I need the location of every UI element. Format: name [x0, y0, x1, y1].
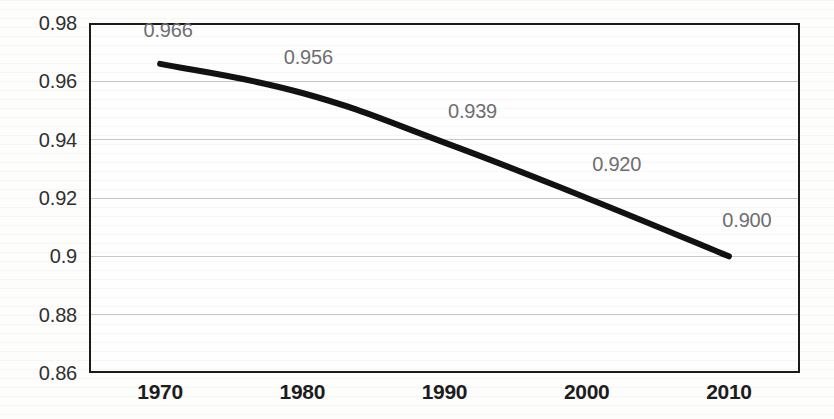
- data-point-label: 0.939: [433, 101, 513, 121]
- data-point-label: 0.956: [268, 47, 348, 67]
- data-point-labels: 0.9660.9560.9390.9200.900: [0, 0, 834, 419]
- data-point-label: 0.920: [577, 154, 657, 174]
- data-point-label: 0.900: [707, 210, 787, 230]
- chart-figure: 0.980.960.940.920.90.880.86 197019801990…: [0, 0, 834, 419]
- data-point-label: 0.966: [128, 20, 208, 40]
